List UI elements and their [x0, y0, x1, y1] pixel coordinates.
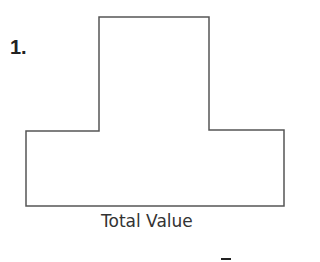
- answer-dash: [221, 258, 231, 260]
- figure-caption: Total Value: [101, 211, 193, 231]
- t-shape-outline: [26, 17, 284, 206]
